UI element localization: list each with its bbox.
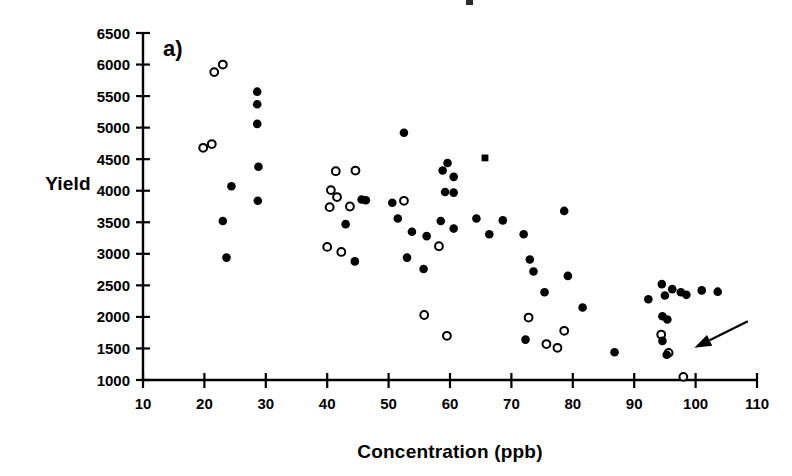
data-point-filled	[219, 217, 228, 226]
data-point-open	[337, 248, 345, 256]
x-axis-title: Concentration (ppb)	[357, 441, 542, 462]
data-point-filled	[578, 303, 587, 312]
data-point-filled	[564, 272, 573, 281]
y-tick-label: 2500	[97, 277, 130, 294]
x-tick-label: 40	[319, 395, 336, 412]
data-point-open	[333, 193, 341, 201]
data-point-filled	[499, 216, 508, 225]
data-point-open	[400, 197, 408, 205]
data-point-filled	[668, 285, 677, 294]
data-point-open	[352, 167, 360, 175]
y-tick-label: 2000	[97, 308, 130, 325]
data-point-filled	[529, 267, 538, 276]
y-tick-label: 1500	[97, 340, 130, 357]
data-point-filled	[449, 173, 458, 182]
x-tick-label: 50	[380, 395, 397, 412]
data-point-filled	[341, 220, 350, 229]
cropped-title-remnant-icon	[466, 0, 473, 5]
data-point-filled	[663, 315, 672, 324]
data-point-filled	[658, 337, 667, 346]
data-point-open	[219, 61, 227, 69]
y-tick-label: 1000	[97, 372, 130, 389]
y-tick-label: 6500	[97, 25, 130, 42]
y-tick-label: 4500	[97, 151, 130, 168]
data-point-open	[199, 144, 207, 152]
x-tick-label: 30	[257, 395, 274, 412]
data-point-filled	[253, 120, 262, 129]
x-tick-label: 90	[626, 395, 643, 412]
data-point-open	[554, 344, 562, 352]
data-point-filled	[560, 207, 569, 216]
scatter-plot-figure: 1000150020002500300035004000450050005500…	[0, 0, 792, 476]
data-point-filled	[526, 255, 535, 264]
data-point-filled	[362, 196, 371, 205]
data-point-open	[679, 373, 687, 381]
data-point-filled	[408, 227, 417, 236]
data-point-filled	[388, 198, 397, 207]
data-point-open	[208, 140, 216, 148]
y-tick-label: 3500	[97, 214, 130, 231]
data-point-filled	[438, 166, 447, 175]
data-point-open	[346, 203, 354, 211]
plot-canvas: 1000150020002500300035004000450050005500…	[0, 0, 792, 476]
data-point-filled	[436, 217, 445, 226]
x-tick-label: 60	[442, 395, 459, 412]
data-point-filled	[610, 348, 619, 357]
data-point-filled	[394, 214, 403, 223]
data-point-filled	[519, 230, 528, 239]
data-point-open	[435, 242, 443, 250]
data-point-filled	[253, 87, 262, 96]
data-point-open	[326, 203, 334, 211]
data-point-filled	[351, 257, 360, 266]
data-point-filled	[713, 287, 722, 296]
x-tick-label: 80	[564, 395, 581, 412]
data-point-filled	[254, 162, 263, 171]
data-point-filled	[677, 288, 686, 297]
data-point-filled	[419, 265, 428, 274]
data-point-open	[443, 332, 451, 340]
data-point-filled	[222, 253, 231, 262]
y-axis-title: Yield	[45, 173, 91, 194]
x-tick-label: 100	[683, 395, 708, 412]
data-point-filled	[472, 214, 481, 223]
data-point-filled	[403, 253, 412, 262]
data-point-open	[420, 311, 428, 319]
data-point-open	[327, 186, 335, 194]
data-point-open	[560, 327, 568, 335]
data-point-open	[525, 314, 533, 322]
data-point-filled	[697, 286, 706, 295]
data-point-filled	[443, 159, 452, 168]
data-point-filled	[400, 128, 409, 137]
data-point-open	[210, 68, 218, 76]
panel-label: a)	[163, 36, 183, 61]
data-point-filled	[441, 188, 450, 197]
x-tick-label: 110	[745, 395, 769, 412]
data-point-filled	[227, 182, 236, 191]
y-tick-label: 5000	[97, 119, 130, 136]
data-point-filled	[449, 224, 458, 233]
data-point-filled	[644, 295, 653, 304]
data-point-open	[332, 167, 340, 175]
data-point-filled	[449, 188, 458, 197]
y-tick-label: 4000	[97, 182, 130, 199]
y-tick-label: 6000	[97, 56, 130, 73]
series-square-marker-series	[482, 155, 489, 162]
data-point-square	[482, 155, 489, 162]
data-point-filled	[253, 100, 262, 109]
data-point-filled	[658, 280, 667, 289]
x-tick-label: 20	[196, 395, 213, 412]
x-tick-label: 70	[503, 395, 520, 412]
y-tick-label: 5500	[97, 88, 130, 105]
data-point-filled	[422, 232, 431, 241]
data-point-filled	[661, 291, 670, 300]
data-point-open	[542, 340, 550, 348]
data-point-filled	[662, 350, 671, 359]
data-point-filled	[521, 335, 530, 344]
y-tick-label: 3000	[97, 245, 130, 262]
data-point-open	[323, 243, 331, 251]
data-point-filled	[254, 197, 263, 206]
data-point-filled	[485, 230, 494, 239]
x-tick-label: 10	[135, 395, 152, 412]
data-point-filled	[540, 288, 549, 297]
